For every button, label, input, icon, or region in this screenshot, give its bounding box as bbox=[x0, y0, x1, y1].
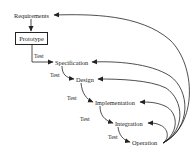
test-label-prototype: Test bbox=[34, 53, 44, 59]
stage-operation: Operation bbox=[132, 139, 157, 146]
feedback-operation-to-implementation bbox=[140, 102, 175, 143]
arrow-specification-to-design bbox=[62, 66, 74, 79]
test-label-integration: Test bbox=[108, 134, 118, 140]
test-label-implementation: Test bbox=[80, 116, 90, 122]
arrow-implementation-to-integration bbox=[100, 106, 113, 123]
test-label-specification: Test bbox=[50, 72, 60, 78]
arrow-integration-to-operation bbox=[118, 127, 130, 142]
stage-specification: Specification bbox=[55, 59, 88, 66]
stage-requirements: Requirements bbox=[14, 12, 49, 19]
stage-implementation: Implementation bbox=[95, 99, 135, 106]
stage-prototype: Prototype bbox=[19, 35, 44, 42]
stage-design: Design bbox=[76, 76, 94, 83]
stage-integration: Integration bbox=[115, 120, 143, 127]
test-label-design: Test bbox=[67, 95, 77, 101]
stage-prototype-box: Prototype bbox=[15, 32, 48, 45]
diagram-connectors bbox=[0, 0, 194, 152]
arrow-design-to-implementation bbox=[81, 83, 93, 102]
